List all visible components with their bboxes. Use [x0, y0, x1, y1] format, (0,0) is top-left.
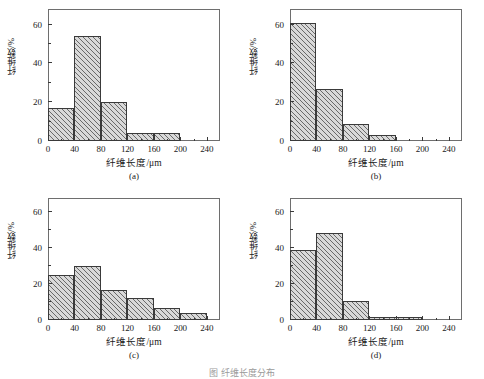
y-tick-mark-minor [290, 229, 293, 230]
x-tick-mark-minor [114, 318, 115, 321]
y-tick-mark [48, 247, 52, 248]
x-tick-mark-minor [409, 139, 410, 142]
subplot-grid: 纤维数/% 0204060 04080120160200240 纤维长度/μm … [0, 0, 484, 358]
x-tick-mark-minor [88, 318, 89, 321]
x-tick-label: 200 [416, 322, 429, 334]
x-tick-label: 240 [200, 322, 213, 334]
x-tick-mark-minor [436, 139, 437, 142]
x-axis-tick-labels-b: 04080120160200240 [290, 143, 462, 155]
y-tick-label: 40 [33, 59, 42, 68]
y-tick-mark [48, 211, 52, 212]
y-tick-mark-minor [48, 265, 51, 266]
subplot-a: 纤维数/% 0204060 04080120160200240 纤维长度/μm … [0, 0, 242, 190]
x-tick-mark [316, 137, 317, 141]
x-tick-mark-minor [167, 318, 168, 321]
plot-area-c [48, 198, 220, 320]
y-tick-mark [290, 101, 294, 102]
x-tick-mark [101, 316, 102, 320]
x-tick-mark-minor [383, 318, 384, 321]
y-tick-label: 60 [33, 208, 42, 217]
x-tick-label: 120 [363, 322, 376, 334]
y-tick-mark-minor [48, 82, 51, 83]
plot-area-d [290, 198, 462, 320]
plot-area-a [48, 9, 220, 141]
axis-ticks-a [48, 9, 220, 141]
x-tick-mark-minor [194, 318, 195, 321]
y-tick-label: 0 [38, 137, 43, 146]
x-tick-mark [316, 316, 317, 320]
x-tick-mark [422, 137, 423, 141]
x-tick-label: 160 [389, 143, 402, 155]
x-tick-mark [74, 316, 75, 320]
y-tick-label: 40 [275, 59, 284, 68]
subplot-label-c: (c) [48, 350, 220, 361]
x-tick-mark [127, 137, 128, 141]
y-axis-title-b: 纤维数/% [248, 38, 262, 75]
y-tick-label: 60 [33, 20, 42, 29]
x-tick-mark-minor [409, 318, 410, 321]
x-tick-mark-minor [167, 139, 168, 142]
axis-ticks-c [48, 198, 220, 320]
x-axis-tick-labels-d: 04080120160200240 [290, 322, 462, 334]
x-tick-mark-minor [356, 139, 357, 142]
x-axis-tick-labels-c: 04080120160200240 [48, 322, 220, 334]
x-tick-label: 40 [312, 322, 321, 334]
figure-fiber-length-distribution: 纤维数/% 0204060 04080120160200240 纤维长度/μm … [0, 0, 484, 379]
y-tick-mark [290, 283, 294, 284]
x-tick-mark-minor [330, 318, 331, 321]
subplot-label-a: (a) [48, 171, 220, 182]
y-axis-title-c: 纤维数/% [6, 222, 20, 259]
x-tick-label: 40 [312, 143, 321, 155]
x-tick-mark [449, 316, 450, 320]
x-tick-label: 200 [416, 143, 429, 155]
x-tick-mark-minor [61, 318, 62, 321]
x-tick-label: 0 [46, 322, 50, 334]
x-tick-mark [180, 316, 181, 320]
y-tick-mark-minor [290, 82, 293, 83]
x-tick-label: 240 [442, 143, 455, 155]
x-tick-mark-minor [114, 139, 115, 142]
x-tick-label: 0 [288, 322, 292, 334]
y-tick-mark [48, 283, 52, 284]
x-axis-title-b: 纤维长度/μm [290, 157, 462, 169]
y-tick-label: 0 [280, 137, 285, 146]
x-tick-mark-minor [356, 318, 357, 321]
y-tick-mark [290, 319, 294, 320]
x-tick-label: 120 [363, 143, 376, 155]
x-tick-mark [369, 137, 370, 141]
x-tick-mark [101, 137, 102, 141]
y-tick-label: 60 [275, 208, 284, 217]
axis-ticks-d [290, 198, 462, 320]
x-tick-mark [422, 316, 423, 320]
y-tick-label: 0 [38, 316, 43, 325]
y-tick-label: 20 [275, 98, 284, 107]
y-tick-label: 20 [33, 98, 42, 107]
y-tick-label: 60 [275, 20, 284, 29]
y-tick-mark [48, 24, 52, 25]
y-tick-label: 0 [280, 316, 285, 325]
x-tick-label: 0 [46, 143, 50, 155]
y-axis-tick-labels-c: 0204060 [26, 198, 44, 320]
x-tick-label: 40 [70, 143, 79, 155]
y-tick-mark [290, 247, 294, 248]
x-tick-label: 120 [121, 143, 134, 155]
y-tick-mark [290, 62, 294, 63]
x-tick-label: 240 [442, 322, 455, 334]
x-tick-label: 240 [200, 143, 213, 155]
y-tick-mark-minor [48, 43, 51, 44]
y-tick-mark-minor [290, 43, 293, 44]
subplot-c: 纤维数/% 0204060 04080120160200240 纤维长度/μm … [0, 190, 242, 358]
y-tick-mark [290, 24, 294, 25]
x-tick-mark-minor [436, 318, 437, 321]
y-tick-mark [290, 140, 294, 141]
y-tick-label: 20 [33, 280, 42, 289]
x-tick-label: 40 [70, 322, 79, 334]
x-tick-label: 80 [339, 143, 348, 155]
x-tick-mark [127, 316, 128, 320]
y-axis-tick-labels-b: 0204060 [268, 9, 286, 141]
y-tick-label: 40 [275, 244, 284, 253]
y-tick-mark [48, 140, 52, 141]
subplot-d: 纤维数/% 0204060 04080120160200240 纤维长度/μm … [242, 190, 484, 358]
x-axis-title-a: 纤维长度/μm [48, 157, 220, 169]
x-tick-mark [369, 316, 370, 320]
